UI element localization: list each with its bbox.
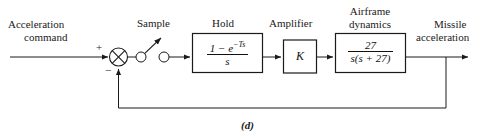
- output-signal-label: Missile acceleration: [416, 18, 469, 43]
- airframe-fraction: 27 s(s + 27): [348, 39, 394, 64]
- output-label-line2: acceleration: [416, 31, 469, 43]
- figure-caption: (d): [241, 119, 254, 131]
- sampler-contact-right: [159, 52, 169, 62]
- input-signal-label: Acceleration command: [8, 18, 67, 43]
- hold-block-title: Hold: [212, 17, 234, 30]
- airframe-denominator: s(s + 27): [348, 51, 394, 64]
- airframe-transfer-function: 27 s(s + 27): [336, 39, 406, 64]
- hold-numerator-text: 1 − e: [210, 42, 233, 54]
- airframe-title-line1: Airframe: [350, 5, 390, 17]
- sampler-label: Sample: [137, 17, 170, 30]
- output-label-line1: Missile: [416, 18, 466, 31]
- hold-numerator-exponent: −Ts: [233, 40, 245, 49]
- airframe-numerator: 27: [348, 39, 394, 51]
- hold-denominator: s: [207, 54, 249, 67]
- hold-numerator: 1 − e−Ts: [207, 40, 249, 54]
- hold-fraction: 1 − e−Ts s: [207, 40, 249, 67]
- input-label-line1: Acceleration: [8, 18, 64, 30]
- block-diagram-figure: Acceleration command + − Sample Hold 1 −…: [0, 0, 500, 139]
- sampler-switch-arm: [145, 38, 162, 54]
- summing-minus-sign: −: [105, 65, 111, 75]
- amplifier-gain-label: K: [284, 49, 317, 64]
- amplifier-block-title: Amplifier: [269, 17, 312, 30]
- summing-plus-sign: +: [96, 42, 102, 52]
- input-label-line2: command: [8, 31, 67, 44]
- airframe-title-line2: dynamics: [349, 18, 391, 30]
- airframe-block-title: Airframe dynamics: [340, 5, 400, 30]
- hold-transfer-function: 1 − e−Ts s: [193, 40, 263, 67]
